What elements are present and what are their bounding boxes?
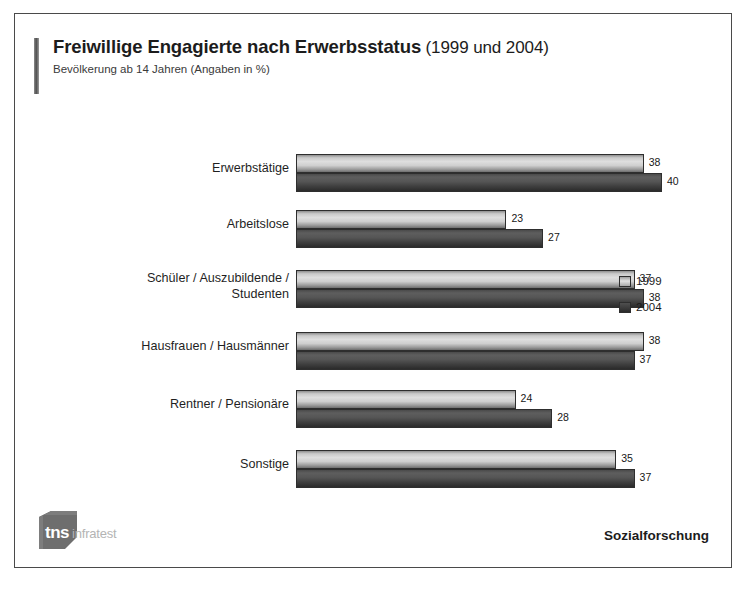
- bar-pair: 3840: [296, 154, 710, 192]
- legend-swatch-2004-icon: [619, 302, 631, 313]
- category-label-line: Schüler / Auszubildende /: [59, 270, 289, 286]
- category-label: Rentner / Pensionäre: [59, 396, 289, 412]
- title-years-text: (1999 und 2004): [426, 38, 549, 57]
- bar-value-label: 40: [667, 175, 679, 187]
- bar-row: 37: [296, 469, 710, 488]
- chart-plot-area: Erwerbstätige3840Arbeitslose2327Schüler …: [34, 132, 710, 502]
- bar-2004: [296, 469, 635, 488]
- bar-row: 24: [296, 390, 710, 409]
- category-label: Erwerbstätige: [59, 160, 289, 176]
- bar-2004: [296, 409, 552, 428]
- title-main-text: Freiwillige Engagierte nach Erwerbsstatu…: [53, 36, 421, 57]
- category-label-line: Rentner / Pensionäre: [59, 396, 289, 412]
- legend-label: 2004: [636, 301, 662, 313]
- bar-row: 23: [296, 210, 710, 229]
- title-accent-bar: [34, 38, 39, 94]
- category-label: Arbeitslose: [59, 216, 289, 232]
- bar-row: 35: [296, 450, 710, 469]
- category-label: Hausfrauen / Hausmänner: [59, 338, 289, 354]
- bar-row: 27: [296, 229, 710, 248]
- bar-1999: [296, 210, 506, 229]
- bar-1999: [296, 450, 616, 469]
- bar-value-label: 28: [557, 411, 569, 423]
- bar-pair: 3837: [296, 332, 710, 370]
- logo-tns-text: tns: [45, 523, 69, 543]
- bar-2004: [296, 289, 644, 308]
- category-label-line: Studenten: [59, 286, 289, 302]
- bar-1999: [296, 270, 635, 289]
- bar-value-label: 23: [511, 212, 523, 224]
- logo-infratest-text: infratest: [72, 526, 116, 541]
- page-title: Freiwillige Engagierte nach Erwerbsstatu…: [53, 36, 674, 58]
- bar-value-label: 27: [548, 231, 560, 243]
- bar-value-label: 35: [621, 452, 633, 464]
- chart-subtitle: Bevölkerung ab 14 Jahren (Angaben in %): [53, 63, 674, 75]
- bar-value-label: 38: [649, 156, 661, 168]
- category-label-line: Arbeitslose: [59, 216, 289, 232]
- legend-item: 2004: [619, 298, 699, 316]
- bar-1999: [296, 390, 516, 409]
- bar-pair: 3537: [296, 450, 710, 488]
- category-label: Sonstige: [59, 456, 289, 472]
- category-label-line: Erwerbstätige: [59, 160, 289, 176]
- bar-value-label: 37: [640, 353, 652, 365]
- bar-pair: 2327: [296, 210, 710, 248]
- tns-infratest-logo: tns infratest: [37, 511, 79, 549]
- chart-legend: 19992004: [619, 272, 699, 324]
- bar-row: 28: [296, 409, 710, 428]
- bar-row: 38: [296, 154, 710, 173]
- footer-right-label: Sozialforschung: [604, 528, 709, 543]
- bar-pair: 2428: [296, 390, 710, 428]
- bar-value-label: 24: [521, 392, 533, 404]
- category-label-line: Hausfrauen / Hausmänner: [59, 338, 289, 354]
- bar-2004: [296, 173, 662, 192]
- bar-2004: [296, 229, 543, 248]
- chart-slide: Freiwillige Engagierte nach Erwerbsstatu…: [14, 13, 732, 568]
- chart-header: Freiwillige Engagierte nach Erwerbsstatu…: [34, 36, 674, 75]
- legend-label: 1999: [636, 275, 662, 287]
- bar-value-label: 38: [649, 334, 661, 346]
- bar-value-label: 37: [640, 471, 652, 483]
- legend-item: 1999: [619, 272, 699, 290]
- bar-1999: [296, 332, 644, 351]
- bar-row: 38: [296, 332, 710, 351]
- bar-row: 37: [296, 351, 710, 370]
- legend-swatch-1999-icon: [619, 276, 631, 287]
- bar-1999: [296, 154, 644, 173]
- category-label: Schüler / Auszubildende /Studenten: [59, 270, 289, 302]
- category-label-line: Sonstige: [59, 456, 289, 472]
- bar-row: 40: [296, 173, 710, 192]
- chart-footer: tns infratest Sozialforschung: [15, 501, 731, 567]
- bar-2004: [296, 351, 635, 370]
- logo-wordmark: tns infratest: [45, 523, 116, 543]
